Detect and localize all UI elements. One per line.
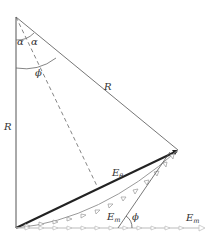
e-theta-label: Eθ — [111, 167, 123, 180]
alpha-left-label: α — [17, 36, 24, 47]
r-diagonal-label: R — [103, 81, 112, 92]
e-m-axis-label: Em — [185, 212, 199, 225]
phasor-arc-arrows — [25, 154, 174, 228]
bisector-dashed-line — [16, 17, 97, 186]
phi-top-label: ϕ — [35, 67, 42, 78]
diagonal-radius-line — [16, 17, 178, 150]
e-theta-chord — [16, 151, 177, 228]
alpha-right-label: α — [31, 36, 38, 47]
phasor-arc-diagram: α α ϕ R R Eθ Em ϕ Em — [0, 0, 212, 239]
r-vertical-label: R — [3, 121, 12, 132]
e-m-curve-label: Em — [106, 211, 120, 224]
phi-bottom-label: ϕ — [132, 211, 139, 222]
